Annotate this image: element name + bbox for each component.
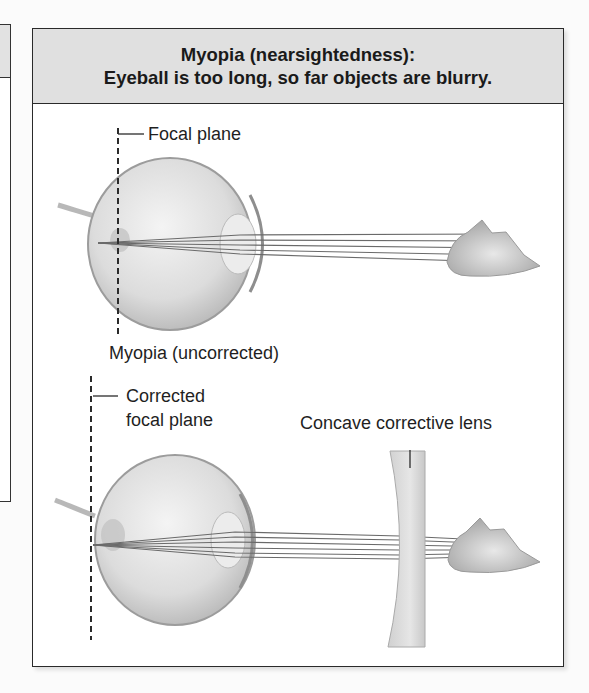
- corrected-focal-plane-label-1: Corrected: [126, 386, 205, 407]
- focal-plane-label: Focal plane: [148, 124, 241, 145]
- eye-lens: [211, 512, 245, 568]
- concave-lens-label: Concave corrective lens: [300, 413, 492, 434]
- corrected-focal-plane-label-2: focal plane: [126, 410, 213, 431]
- eye-corrected: [55, 455, 255, 625]
- fovea: [110, 228, 130, 252]
- eye-lens: [220, 214, 256, 274]
- diagram-artwork: [0, 0, 589, 693]
- mountain-icon: [448, 518, 540, 573]
- optic-nerve: [55, 500, 95, 516]
- concave-lens: [388, 451, 425, 647]
- mountain-icon: [447, 220, 540, 276]
- uncorrected-caption: Myopia (uncorrected): [109, 343, 279, 364]
